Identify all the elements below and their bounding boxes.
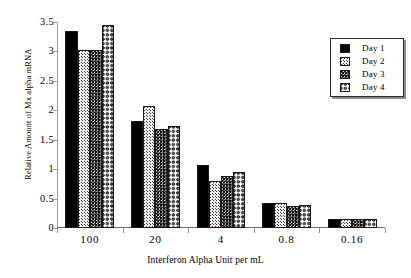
bar-day-1-4: [197, 165, 209, 228]
bar-day-1-0.16: [328, 219, 340, 228]
x-tick-mark: [123, 228, 124, 233]
bar-day-4-4: [233, 172, 245, 228]
x-axis-title: Interferon Alpha Unit per mL: [0, 255, 411, 265]
x-tick-label: 20: [149, 234, 162, 245]
x-tick-mark: [188, 228, 189, 233]
bar-group: [123, 22, 189, 228]
legend-item-day-4: Day 4: [331, 81, 403, 94]
x-tick-label: 4: [218, 234, 224, 245]
y-tick-label: 3.5: [28, 17, 54, 28]
y-tick-label: 3: [28, 46, 54, 57]
y-tick-label: 1.5: [28, 134, 54, 145]
x-tick-mark: [254, 228, 255, 233]
bar-day-2-4: [209, 181, 221, 228]
bar-chart: Relative Amount of Mx alpha mRNA 00.511.…: [0, 0, 411, 278]
bar-day-2-100: [78, 50, 90, 228]
bar-group: [188, 22, 254, 228]
bar-day-3-0.16: [352, 219, 364, 228]
legend-label: Day 4: [362, 83, 385, 92]
bar-group: [57, 22, 123, 228]
bar-day-1-100: [65, 31, 77, 228]
x-tick-mark: [385, 228, 386, 233]
legend: Day 1Day 2Day 3Day 4: [330, 38, 404, 97]
x-axis-tick-labels: 1002040.80.16: [57, 234, 385, 252]
bar-group: [254, 22, 320, 228]
bar-day-3-100: [90, 50, 102, 228]
bar-day-4-0.16: [364, 219, 376, 228]
bar-day-4-100: [102, 25, 114, 228]
bar-day-2-0.16: [340, 219, 352, 228]
bar-day-2-20: [143, 106, 155, 228]
legend-swatch-icon: [340, 70, 350, 79]
x-tick-mark: [57, 228, 58, 233]
y-tick-label: 2: [28, 105, 54, 116]
x-tick-label: 100: [80, 234, 99, 245]
x-tick-mark: [319, 228, 320, 233]
bar-day-4-20: [168, 126, 180, 228]
x-tick-label: 0.8: [279, 234, 295, 245]
legend-swatch-icon: [340, 57, 350, 66]
legend-label: Day 2: [362, 57, 385, 66]
legend-swatch-icon: [340, 83, 350, 92]
legend-item-day-3: Day 3: [331, 68, 403, 81]
legend-item-day-2: Day 2: [331, 55, 403, 68]
x-tick-label: 0.16: [341, 234, 363, 245]
y-tick-label: 0.5: [28, 193, 54, 204]
legend-item-day-1: Day 1: [331, 42, 403, 55]
legend-swatch-icon: [340, 44, 350, 53]
bar-day-4-0.8: [299, 205, 311, 228]
bar-day-3-20: [155, 129, 167, 228]
bar-day-1-20: [131, 121, 143, 228]
bar-day-2-0.8: [274, 203, 286, 228]
legend-label: Day 3: [362, 70, 385, 79]
y-axis-tick-labels: 00.511.522.533.5: [26, 0, 54, 278]
y-tick-label: 0: [28, 223, 54, 234]
y-tick-label: 1: [28, 164, 54, 175]
y-tick-label: 2.5: [28, 76, 54, 87]
bar-day-1-0.8: [262, 203, 274, 228]
bar-day-3-0.8: [287, 206, 299, 228]
legend-label: Day 1: [362, 44, 385, 53]
bar-day-3-4: [221, 176, 233, 228]
